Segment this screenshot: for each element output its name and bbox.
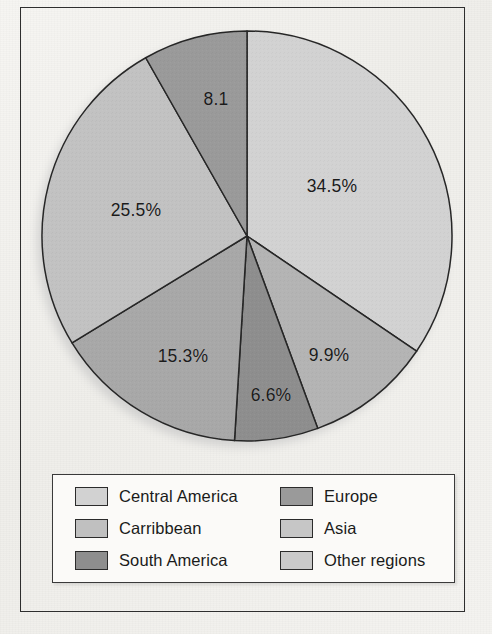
legend-label-carribbean: Carribbean <box>119 519 202 538</box>
legend-swatch-carribbean <box>75 519 108 538</box>
pie-svg <box>0 0 492 470</box>
legend-swatch-asia <box>280 519 313 538</box>
legend-item-south-america[interactable]: South America <box>53 551 258 570</box>
legend-grid: Central AmericaEuropeCarribbeanAsiaSouth… <box>53 475 454 582</box>
legend-swatch-south-america <box>75 551 108 570</box>
legend-item-other-regions[interactable]: Other regions <box>258 551 456 570</box>
legend-label-other-regions: Other regions <box>324 551 425 570</box>
legend-item-central-america[interactable]: Central America <box>53 487 258 506</box>
legend-item-carribbean[interactable]: Carribbean <box>53 519 258 538</box>
pie-label-asia: 9.9% <box>309 345 350 366</box>
legend-label-asia: Asia <box>324 519 357 538</box>
pie-label-other-regions: 25.5% <box>111 200 162 221</box>
pie-label-central-america: 34.5% <box>307 176 358 197</box>
legend-swatch-other-regions <box>280 551 313 570</box>
pie-slice-group <box>42 31 452 441</box>
legend-item-asia[interactable]: Asia <box>258 519 456 538</box>
legend-swatch-central-america <box>75 487 108 506</box>
legend-label-south-america: South America <box>119 551 228 570</box>
pie-label-carribbean: 15.3% <box>158 346 209 367</box>
legend-label-central-america: Central America <box>119 487 238 506</box>
legend-label-europe: Europe <box>324 487 378 506</box>
legend-swatch-europe <box>280 487 313 506</box>
legend: Central AmericaEuropeCarribbeanAsiaSouth… <box>52 474 455 583</box>
legend-item-europe[interactable]: Europe <box>258 487 456 506</box>
pie-chart: 34.5%9.9%6.6%15.3%25.5%8.1 <box>0 0 492 470</box>
pie-label-south-america: 6.6% <box>251 385 292 406</box>
pie-label-europe: 8.1 <box>204 89 229 110</box>
